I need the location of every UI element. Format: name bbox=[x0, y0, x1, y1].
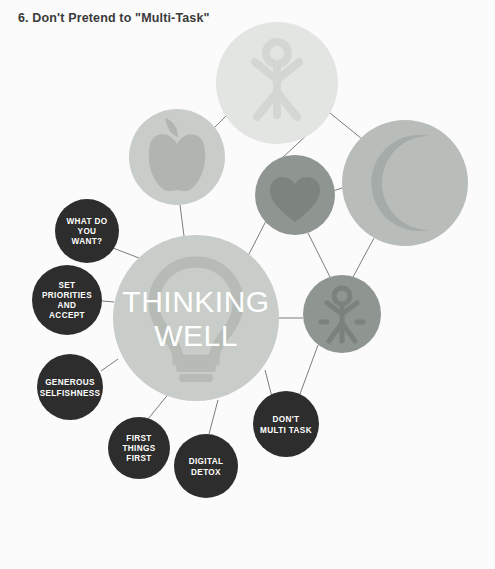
first-things-first-line-1: THINGS bbox=[122, 444, 155, 453]
set-priorities-node[interactable]: SET PRIORITIES AND ACCEPT bbox=[32, 265, 102, 335]
set-priorities-line-1: PRIORITIES bbox=[42, 291, 92, 300]
connector-hub-to-set-priorities bbox=[102, 301, 114, 302]
connector-moon-to-person bbox=[353, 238, 374, 277]
hub-label-line1: THINKING bbox=[122, 285, 269, 318]
digital-detox-line-1: DETOX bbox=[191, 468, 221, 477]
connector-stretch-to-moon bbox=[330, 113, 362, 139]
movement-person-node[interactable] bbox=[303, 275, 381, 353]
first-things-first-line-0: FIRST bbox=[126, 434, 151, 443]
dont-multi-task-line-0: DON'T bbox=[273, 415, 300, 424]
connector-hub-to-dont-multi-task bbox=[265, 370, 272, 397]
set-priorities-circle bbox=[32, 265, 102, 335]
connector-heart-to-hub bbox=[248, 219, 267, 256]
generous-selfishness-node[interactable]: GENEROUS SELFISHNESS bbox=[37, 354, 103, 420]
thinking-well-network-diagram: THINKING WELL WHAT DO YOU WANT? SET PRIO… bbox=[0, 0, 495, 569]
digital-detox-node[interactable]: DIGITAL DETOX bbox=[174, 434, 238, 498]
nutrition-apple-node[interactable] bbox=[129, 109, 225, 205]
connector-heart-to-person bbox=[308, 233, 330, 277]
dont-multi-task-circle bbox=[253, 391, 319, 457]
what-do-you-want-line-0: WHAT DO bbox=[67, 217, 108, 226]
connector-person-to-dont-multi-task bbox=[300, 345, 318, 394]
connector-hub-to-generous-selfishness bbox=[101, 359, 118, 371]
generous-selfishness-circle bbox=[37, 354, 103, 420]
first-things-first-line-2: FIRST bbox=[126, 454, 151, 463]
dont-multi-task-node[interactable]: DON'T MULTI TASK bbox=[253, 391, 319, 457]
infographic-page: 6. Don't Pretend to "Multi-Task" THINKIN… bbox=[0, 0, 495, 569]
stretch-person-node[interactable] bbox=[216, 22, 338, 144]
sleep-moon-node[interactable] bbox=[342, 120, 468, 246]
set-priorities-line-2: AND bbox=[58, 301, 77, 310]
digital-detox-circle bbox=[174, 434, 238, 498]
hub-label-line2: WELL bbox=[154, 319, 238, 352]
dont-multi-task-line-1: MULTI TASK bbox=[260, 426, 312, 435]
connector-hub-to-first-things-first bbox=[148, 392, 170, 419]
set-priorities-line-0: SET bbox=[59, 281, 76, 290]
connector-hub-to-digital-detox bbox=[209, 400, 218, 434]
what-do-you-want-node[interactable]: WHAT DO YOU WANT? bbox=[55, 199, 119, 263]
heart-node[interactable] bbox=[255, 155, 335, 235]
thinking-well-hub[interactable]: THINKING WELL bbox=[113, 235, 279, 401]
what-do-you-want-line-1: YOU bbox=[78, 227, 97, 236]
connector-apple-to-hub bbox=[180, 205, 184, 236]
digital-detox-line-0: DIGITAL bbox=[189, 457, 224, 466]
what-do-you-want-line-2: WANT? bbox=[72, 237, 103, 246]
generous-selfishness-line-0: GENEROUS bbox=[45, 378, 95, 387]
connector-hub-to-what-do-you-want bbox=[113, 248, 139, 258]
first-things-first-node[interactable]: FIRST THINGS FIRST bbox=[108, 417, 170, 479]
set-priorities-line-3: ACCEPT bbox=[49, 311, 85, 320]
generous-selfishness-line-1: SELFISHNESS bbox=[40, 389, 101, 398]
